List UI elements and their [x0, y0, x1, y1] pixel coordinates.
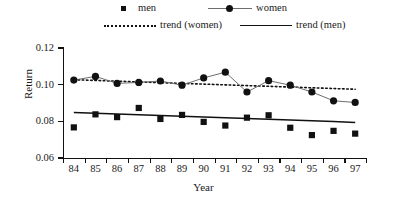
men-point	[330, 128, 336, 134]
men-point	[266, 112, 272, 118]
men-point	[71, 124, 77, 130]
men-point	[114, 114, 120, 120]
women-data-points	[70, 69, 359, 106]
men-point	[352, 131, 358, 137]
women-point	[70, 76, 77, 83]
women-point	[135, 79, 142, 86]
women-point	[178, 82, 185, 89]
women-point	[222, 69, 229, 76]
chart-root: men women trend (women) trend (men) Retu…	[0, 0, 407, 203]
women-point	[287, 82, 294, 89]
series-layer	[0, 0, 407, 203]
women-point	[352, 99, 359, 106]
women-point	[330, 97, 337, 104]
women-point	[200, 74, 207, 81]
men-point	[92, 111, 98, 117]
women-point	[243, 88, 250, 95]
men-point	[136, 105, 142, 111]
women-point	[265, 77, 272, 84]
women-point	[114, 80, 121, 87]
men-point	[287, 125, 293, 131]
women-point	[308, 88, 315, 95]
women-point	[157, 77, 164, 84]
men-point	[222, 122, 228, 128]
men-point	[179, 112, 185, 118]
men-point	[201, 119, 207, 125]
men-point	[244, 115, 250, 121]
men-point	[309, 132, 315, 138]
women-point	[92, 73, 99, 80]
men-point	[157, 116, 163, 122]
